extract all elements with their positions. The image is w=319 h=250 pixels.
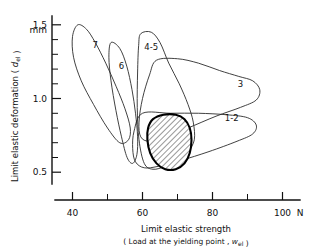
y-tick-group [52,25,61,172]
y-tick-label: 0.5 [33,167,47,177]
x-tick-label: 60 [137,208,149,218]
x-tick-group [73,192,283,200]
x-axis-title: Limit elastic strength [141,224,231,234]
y-tick-label: 1.0 [33,94,48,104]
contour-group [72,25,260,170]
curve-label-group: 764-531-2 [93,40,244,122]
x-axis-subtitle: ( Load at the yielding point , wel ) [123,237,248,248]
y-axis-title: Limit elastic deformation ( del ) [10,50,22,182]
curve-label-6: 6 [119,61,124,71]
chart-svg: 764-531-2 0.51.01.5 mm 406080100 N Limit… [0,0,319,250]
x-tick-label: 80 [207,208,219,218]
x-tick-label: 100 [274,208,291,218]
y-tick-label-group: 0.51.01.5 [33,20,48,177]
x-tick-label-group: 406080100 [67,208,292,218]
y-axis: 0.51.01.5 mm [29,16,61,184]
x-axis-unit-label: N [297,208,304,218]
figure-container: 764-531-2 0.51.01.5 mm 406080100 N Limit… [0,0,319,250]
curve-label-3: 3 [238,79,243,89]
overlap-region-hatched [147,114,191,170]
contour-region-7 [72,25,130,144]
curve-label-4-5: 4-5 [144,42,158,52]
x-tick-label: 40 [67,208,79,218]
curve-label-1-2: 1-2 [225,113,239,123]
y-axis-unit-label: mm [29,25,47,35]
x-axis: 406080100 N [55,192,303,218]
curve-label-7: 7 [93,40,98,50]
